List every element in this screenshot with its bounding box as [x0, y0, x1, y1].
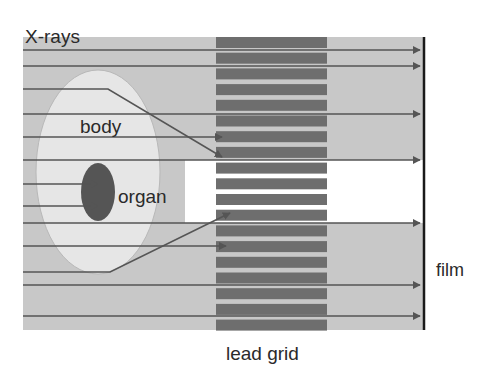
lead-grid-bar — [216, 320, 327, 331]
lead-grid-bar — [216, 241, 327, 252]
xrays-label: X-rays — [25, 27, 80, 46]
lead-grid-bar — [216, 84, 327, 95]
lead-grid-label: lead grid — [226, 344, 299, 363]
lead-grid-bar — [216, 163, 327, 174]
film-label: film — [436, 261, 464, 279]
lead-grid-bar — [216, 116, 327, 127]
lead-grid-bar — [216, 68, 327, 79]
lead-grid-bar — [216, 131, 327, 142]
lead-grid-bar — [216, 147, 327, 158]
organ-label: organ — [118, 187, 167, 206]
lead-grid-bar — [216, 37, 327, 48]
lead-grid-bar — [216, 53, 327, 64]
lead-grid-bar — [216, 194, 327, 205]
lead-grid-bar — [216, 225, 327, 236]
organ-shape — [81, 163, 115, 221]
lead-grid-bar — [216, 100, 327, 111]
lead-grid-bar — [216, 210, 327, 221]
lead-grid-bar — [216, 288, 327, 299]
lead-grid-bar — [216, 304, 327, 315]
body-label: body — [80, 117, 121, 136]
lead-grid-bar — [216, 178, 327, 189]
xray-lead-grid-diagram — [0, 0, 479, 372]
lead-grid-bar — [216, 257, 327, 268]
lead-grid-bar — [216, 273, 327, 284]
